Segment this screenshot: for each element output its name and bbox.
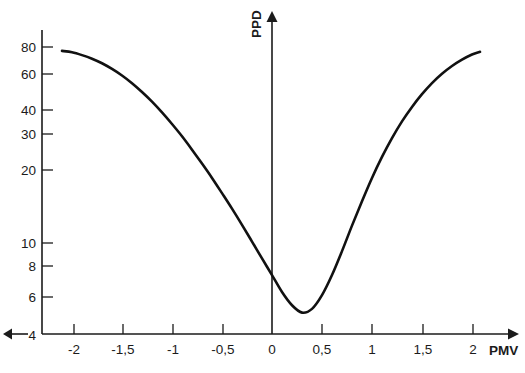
y-axis-ticks — [42, 47, 53, 297]
x-axis — [42, 329, 519, 340]
y-tick-label-60: 60 — [21, 67, 36, 82]
y-tick-label-10: 10 — [21, 236, 36, 251]
y-axis-tick-labels: 80 60 40 30 20 10 8 6 4 — [21, 40, 37, 343]
x-axis-title: PMV — [489, 343, 518, 358]
x-tick-label-0-5: 0,5 — [313, 342, 332, 357]
x-tick-label-neg1-5: -1,5 — [111, 342, 134, 357]
center-vertical-axis — [267, 11, 278, 334]
baseline-left-arrow — [3, 329, 28, 340]
x-tick-label-1: 1 — [368, 342, 376, 357]
ppd-pmv-chart: 80 60 40 30 20 10 8 6 4 -2 -1,5 -1 -0,5 — [0, 0, 525, 373]
x-axis-tick-labels: -2 -1,5 -1 -0,5 0 0,5 1 1,5 2 — [68, 342, 477, 357]
y-tick-label-6: 6 — [28, 290, 36, 305]
y-axis-title: PPD — [249, 10, 264, 38]
x-tick-label-neg0-5: -0,5 — [211, 342, 234, 357]
x-tick-label-neg2: -2 — [68, 342, 80, 357]
y-tick-label-4: 4 — [28, 328, 36, 343]
y-axis-arrow-icon — [267, 11, 278, 22]
y-tick-label-40: 40 — [21, 103, 36, 118]
ppd-curve-line — [62, 51, 480, 313]
x-axis-ticks — [74, 324, 473, 334]
x-tick-label-0: 0 — [268, 342, 276, 357]
x-tick-label-neg1: -1 — [167, 342, 179, 357]
y-tick-label-80: 80 — [21, 40, 36, 55]
chart-container: 80 60 40 30 20 10 8 6 4 -2 -1,5 -1 -0,5 — [0, 0, 525, 373]
y-tick-label-20: 20 — [21, 163, 36, 178]
x-axis-arrow-icon — [508, 329, 519, 340]
x-tick-label-2: 2 — [469, 342, 477, 357]
y-tick-label-30: 30 — [21, 127, 36, 142]
y-tick-label-8: 8 — [28, 259, 36, 274]
x-tick-label-1-5: 1,5 — [414, 342, 433, 357]
baseline-left-arrow-icon — [3, 329, 12, 340]
